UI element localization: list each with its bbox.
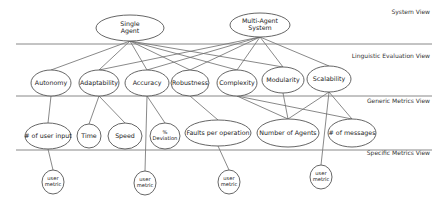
edge-adaptability-time: [89, 96, 99, 124]
node-time: Time: [77, 124, 101, 148]
node-adaptability: Adaptability: [79, 70, 119, 96]
edge-multi-robustness: [190, 37, 260, 70]
node-speed: Speed: [108, 123, 142, 149]
node-label: # of user input: [24, 132, 72, 140]
node-multi: Multi-AgentSystem: [230, 13, 290, 37]
node-label: Complexity: [219, 79, 255, 87]
edge-multi-accuracy: [147, 37, 260, 70]
node-label: metric: [221, 181, 238, 187]
node-label: Number of Agents: [259, 129, 316, 137]
node-autonomy: Autonomy: [31, 70, 71, 96]
view-label-generic: Generic Metrics View: [367, 97, 430, 104]
node-label: Scalability: [313, 75, 346, 83]
view-label-specific: Specific Metrics View: [367, 149, 430, 157]
edge-robustness-faults: [190, 96, 218, 120]
edge-complexity-agents: [237, 96, 288, 119]
node-complexity: Complexity: [217, 70, 257, 96]
node-user_input: # of user input: [24, 123, 72, 149]
node-label: metric: [137, 182, 154, 188]
node-label: Adaptability: [80, 79, 118, 87]
edge-complexity-messages: [237, 96, 352, 119]
node-deviation: %Deviation: [150, 123, 180, 149]
node-label: Modularity: [266, 76, 300, 84]
node-label: # of messages: [329, 129, 376, 137]
node-label: Faults per operation: [186, 129, 249, 137]
node-label: System: [248, 24, 271, 32]
edge-accuracy-deviation: [147, 96, 165, 123]
node-label: Agent: [121, 27, 140, 35]
node-label: metric: [45, 181, 62, 187]
node-label: Speed: [115, 132, 135, 140]
node-um2: usermetric: [134, 171, 156, 195]
node-label: Time: [80, 132, 97, 139]
node-agents: Number of Agents: [257, 119, 319, 147]
node-label: Accuracy: [133, 79, 162, 87]
node-single: SingleAgent: [96, 15, 164, 41]
edge-multi-complexity: [237, 37, 260, 70]
edge-adaptability-speed: [99, 96, 125, 123]
nodes-layer: SingleAgentMulti-AgentSystemAutonomyAdap…: [24, 13, 376, 195]
node-modularity: Modularity: [262, 67, 304, 93]
node-um1: usermetric: [42, 170, 64, 194]
node-scalability: Scalability: [307, 66, 351, 92]
view-label-system: System View: [391, 8, 430, 16]
node-label: Robustness: [172, 79, 208, 86]
node-label: Autonomy: [35, 79, 68, 87]
edge-user_input-um1: [48, 149, 53, 170]
node-faults: Faults per operation: [185, 120, 251, 146]
node-um4: usermetric: [310, 165, 332, 189]
node-um3: usermetric: [218, 170, 240, 194]
edge-single-adaptability: [99, 41, 130, 70]
edge-accuracy-um2: [145, 96, 147, 171]
node-accuracy: Accuracy: [125, 70, 169, 96]
view-label-linguistic: Linguistic Evaluation View: [352, 52, 430, 60]
node-label: metric: [313, 176, 330, 182]
evaluation-views-diagram: SingleAgentMulti-AgentSystemAutonomyAdap…: [0, 0, 446, 207]
edge-autonomy-user_input: [48, 96, 51, 123]
edge-single-modularity: [130, 41, 283, 67]
edge-single-autonomy: [51, 41, 130, 70]
edges-layer: [48, 37, 352, 171]
node-messages: # of messages: [328, 119, 376, 147]
edge-multi-scalability: [260, 37, 329, 66]
node-robustness: Robustness: [171, 70, 209, 96]
node-label: Deviation: [153, 135, 178, 141]
edge-single-robustness: [130, 41, 190, 70]
